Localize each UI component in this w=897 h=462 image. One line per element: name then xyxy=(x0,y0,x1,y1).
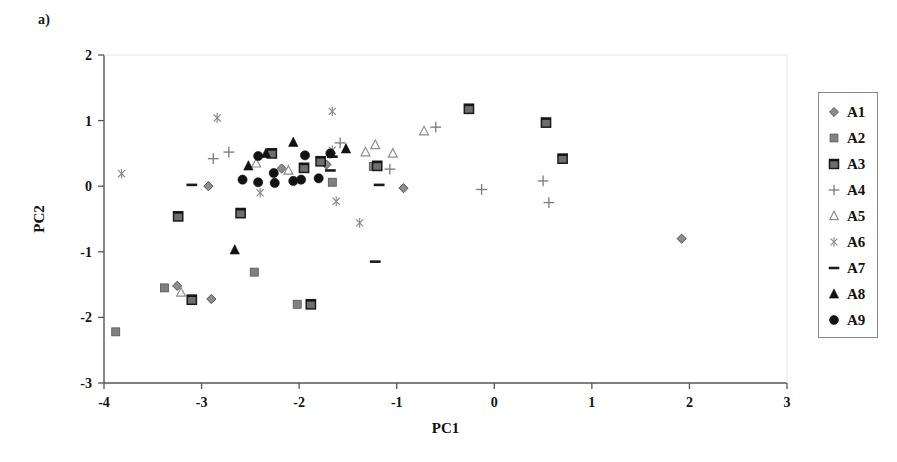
legend-label-A2: A2 xyxy=(847,131,865,146)
marker-square-cap xyxy=(299,163,308,165)
legend-label-A6: A6 xyxy=(847,235,865,250)
y-tick-label: 2 xyxy=(85,48,92,63)
legend-marker-A7 xyxy=(824,258,844,278)
data-point xyxy=(677,234,686,243)
data-point xyxy=(388,149,397,158)
data-point xyxy=(464,104,473,113)
x-tick-label: 0 xyxy=(491,395,498,410)
data-point xyxy=(230,245,239,254)
legend-label-A3: A3 xyxy=(847,157,865,172)
data-point xyxy=(208,153,219,164)
marker-diamond xyxy=(677,234,686,243)
marker-triangle-open xyxy=(830,211,839,219)
legend-item-A3: A3 xyxy=(819,151,877,177)
data-point xyxy=(118,169,125,179)
data-point xyxy=(238,175,247,184)
marker-square-cap xyxy=(174,212,183,214)
marker-triangle-filled xyxy=(829,289,838,298)
marker-square-cap xyxy=(267,149,276,151)
marker-circle-filled xyxy=(238,175,247,184)
series-A1 xyxy=(173,160,687,304)
x-axis-title: PC1 xyxy=(432,420,460,436)
x-tick-label: -2 xyxy=(293,395,305,410)
data-point xyxy=(476,184,487,195)
marker-square-cap xyxy=(306,300,315,302)
scatter-plot: -4-3-2-10123-3-2-1012PC1PC2 xyxy=(0,0,897,462)
data-point xyxy=(420,126,429,135)
legend-item-A8: A8 xyxy=(819,281,877,307)
data-point xyxy=(254,178,263,187)
marker-square-cap xyxy=(829,159,838,161)
legend-marker-A4 xyxy=(824,180,844,200)
marker-square xyxy=(112,328,120,336)
marker-circle-filled xyxy=(270,178,279,187)
data-point xyxy=(296,175,305,184)
data-point xyxy=(254,151,263,160)
legend-item-A5: A5 xyxy=(819,203,877,229)
legend-marker-A5 xyxy=(824,206,844,226)
data-point xyxy=(558,154,567,163)
marker-circle-filled xyxy=(296,175,305,184)
data-points-group xyxy=(112,104,687,336)
marker-triangle-filled xyxy=(230,245,239,254)
marker-square-cap xyxy=(187,295,196,297)
data-point xyxy=(112,328,120,336)
data-point xyxy=(361,147,370,156)
data-point xyxy=(328,178,336,186)
data-point xyxy=(174,212,183,221)
legend-item-A6: A6 xyxy=(819,229,877,255)
data-point xyxy=(214,113,221,123)
marker-square xyxy=(293,300,301,308)
data-point xyxy=(300,151,309,160)
data-point xyxy=(187,295,196,304)
data-point xyxy=(538,176,549,187)
x-tick-label: -4 xyxy=(98,395,110,410)
data-point xyxy=(257,188,264,198)
legend-label-A5: A5 xyxy=(847,209,865,224)
marker-square xyxy=(160,284,168,292)
marker-circle-filled xyxy=(314,174,323,183)
data-point xyxy=(314,174,323,183)
x-tick-label: 2 xyxy=(686,395,693,410)
data-point xyxy=(373,161,382,170)
marker-diamond xyxy=(399,184,408,193)
series-A2 xyxy=(112,163,378,336)
axes-group xyxy=(98,55,787,389)
data-point xyxy=(326,149,335,158)
marker-diamond xyxy=(829,107,838,116)
data-point xyxy=(269,168,278,177)
marker-circle-filled xyxy=(326,149,335,158)
data-point xyxy=(299,163,308,172)
marker-square xyxy=(830,134,838,142)
marker-circle-filled xyxy=(300,151,309,160)
legend-item-A9: A9 xyxy=(819,307,877,333)
data-point xyxy=(371,140,380,149)
legend: A1A2A3A4A5A6A7A8A9 xyxy=(818,92,878,338)
data-point xyxy=(430,122,441,133)
legend-label-A9: A9 xyxy=(847,313,865,328)
marker-square-cap xyxy=(373,161,382,163)
legend-label-A4: A4 xyxy=(847,183,865,198)
marker-triangle-filled xyxy=(244,161,253,170)
data-point xyxy=(399,184,408,193)
data-point xyxy=(223,147,234,158)
marker-square xyxy=(328,178,336,186)
x-tick-label: 1 xyxy=(588,395,595,410)
data-point xyxy=(270,178,279,187)
data-point xyxy=(244,161,253,170)
legend-marker-A9 xyxy=(824,310,844,330)
legend-marker-A8 xyxy=(824,284,844,304)
marker-square-cap xyxy=(541,118,550,120)
data-point xyxy=(544,197,555,208)
marker-square xyxy=(250,268,258,276)
data-point xyxy=(204,182,213,191)
data-point xyxy=(293,300,301,308)
series-A3 xyxy=(174,104,568,309)
marker-triangle-open xyxy=(388,149,397,158)
data-point xyxy=(250,268,258,276)
data-point xyxy=(236,208,245,217)
marker-triangle-open xyxy=(361,147,370,156)
legend-marker-A3 xyxy=(824,154,844,174)
marker-triangle-filled xyxy=(289,137,298,146)
marker-square-cap xyxy=(558,154,567,156)
